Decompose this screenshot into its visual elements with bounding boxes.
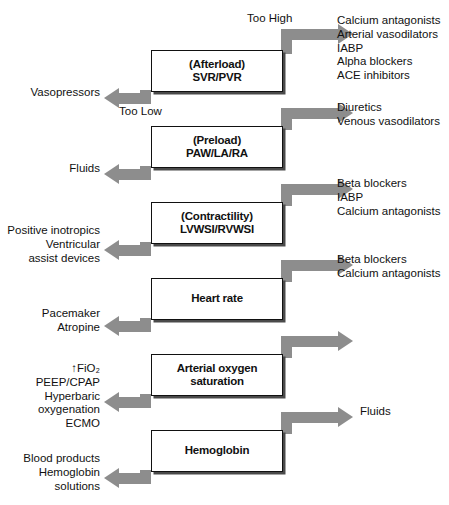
node-heart-rate[interactable]: Heart rate (151, 278, 283, 320)
shaft (119, 321, 151, 332)
node-label: Hemoglobin (185, 444, 249, 458)
treatments-heart-rate-high: Beta blockers Calcium antagonists (337, 253, 441, 281)
tag-too-high: Too High (247, 12, 292, 25)
node-label: Arterial oxygen saturation (177, 362, 258, 389)
shaft (119, 93, 151, 104)
node-label: (Afterload) SVR/PVR (189, 58, 245, 85)
arrowhead-left (104, 240, 119, 260)
arrowhead-left (104, 468, 119, 488)
node-arterial-oxygen-saturation[interactable]: Arterial oxygen saturation (151, 354, 283, 396)
treatments-contractility-high: Beta blockers IABP Calcium antagonists (337, 177, 441, 218)
treatments-preload-high: Diuretics Venous vasodilators (337, 101, 440, 129)
shaft (288, 260, 340, 271)
treatments-hemoglobin-low: Blood products Hemoglobin solutions (0, 452, 100, 493)
arrowhead-left (104, 164, 119, 184)
shaft (288, 412, 340, 423)
treatments-preload-low: Fluids (0, 162, 100, 176)
node-label: Heart rate (191, 292, 243, 306)
shaft (119, 169, 151, 180)
node-hemoglobin[interactable]: Hemoglobin (151, 430, 283, 472)
treatments-heart-rate-low: Pacemaker Atropine (0, 307, 100, 335)
shaft (288, 108, 340, 119)
treatments-contractility-low: Positive inotropics Ventricular assist d… (0, 224, 100, 265)
shaft (288, 336, 340, 347)
node-afterload[interactable]: (Afterload) SVR/PVR (151, 50, 283, 92)
treatments-arterial-o2-low: ↑FiO₂ PEEP/CPAP Hyperbaric oxygenation E… (0, 362, 100, 431)
arrowhead-left (104, 316, 119, 336)
shaft (119, 473, 151, 484)
shaft (119, 245, 151, 256)
node-label: (Contractility) LVWSI/RVWSI (180, 210, 254, 237)
treatments-afterload-low: Vasopressors (0, 86, 100, 100)
treatments-afterload-high: Calcium antagonists Arterial vasodilator… (337, 14, 441, 83)
treatments-hemoglobin-high: Fluids (360, 405, 391, 419)
tag-too-low: Too Low (119, 105, 162, 118)
node-label: (Preload) PAW/LA/RA (186, 134, 248, 161)
arrowhead-right (338, 407, 353, 427)
arrowhead-left (104, 392, 119, 412)
node-contractility[interactable]: (Contractility) LVWSI/RVWSI (151, 202, 283, 244)
arrowhead-right (338, 331, 353, 351)
node-preload[interactable]: (Preload) PAW/LA/RA (151, 126, 283, 168)
shaft (288, 184, 340, 195)
flowchart-canvas: Too High (Afterload) SVR/PVR Calcium ant… (0, 0, 449, 505)
arrowhead-left (104, 88, 119, 108)
shaft (119, 397, 151, 408)
shaft (288, 29, 340, 40)
